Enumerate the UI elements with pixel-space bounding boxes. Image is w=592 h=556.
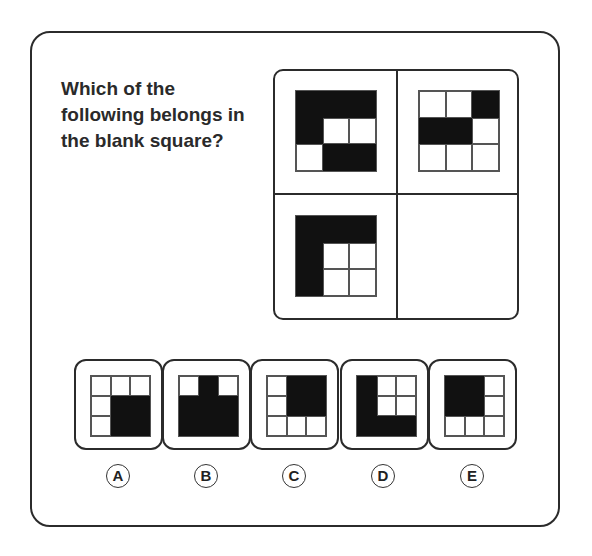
filled-cell <box>218 396 238 416</box>
empty-cell <box>484 376 504 396</box>
filled-cell <box>130 416 150 436</box>
empty-cell <box>472 118 499 145</box>
filled-cell <box>287 376 307 396</box>
filled-cell <box>130 396 150 416</box>
empty-cell <box>287 416 307 436</box>
option-b-label[interactable]: B <box>194 464 218 488</box>
empty-cell <box>267 376 287 396</box>
empty-cell <box>267 396 287 416</box>
empty-cell <box>267 416 287 436</box>
empty-cell <box>91 376 111 396</box>
empty-cell <box>396 396 416 416</box>
option-a-grid <box>90 375 151 437</box>
empty-cell <box>91 396 111 416</box>
filled-cell <box>218 416 238 436</box>
empty-cell <box>296 144 323 171</box>
question-text: Which of the following belongs in the bl… <box>61 76 261 154</box>
filled-cell <box>199 396 219 416</box>
empty-cell <box>306 416 326 436</box>
filled-cell <box>465 376 485 396</box>
filled-cell <box>349 216 376 243</box>
option-d-label[interactable]: D <box>371 464 395 488</box>
empty-cell <box>484 396 504 416</box>
empty-cell <box>484 416 504 436</box>
option-c-label[interactable]: C <box>282 464 306 488</box>
empty-cell <box>130 376 150 396</box>
option-c-figure[interactable] <box>250 359 339 450</box>
empty-cell <box>179 376 199 396</box>
empty-cell <box>446 144 473 171</box>
filled-cell <box>396 416 416 436</box>
option-a-figure[interactable] <box>74 359 163 450</box>
filled-cell <box>357 416 377 436</box>
filled-cell <box>296 243 323 270</box>
filled-cell <box>377 416 397 436</box>
puzzle-matrix <box>273 69 519 320</box>
filled-cell <box>357 396 377 416</box>
option-b-grid <box>178 375 239 437</box>
empty-cell <box>445 416 465 436</box>
empty-cell <box>218 376 238 396</box>
filled-cell <box>323 216 350 243</box>
filled-cell <box>179 396 199 416</box>
filled-cell <box>323 144 350 171</box>
empty-cell <box>465 416 485 436</box>
filled-cell <box>296 269 323 296</box>
empty-cell <box>323 243 350 270</box>
puzzle-cell-top-left <box>295 90 377 172</box>
empty-cell <box>349 118 376 145</box>
filled-cell <box>111 396 131 416</box>
filled-cell <box>111 416 131 436</box>
option-e-figure[interactable] <box>428 359 517 450</box>
empty-cell <box>396 376 416 396</box>
empty-cell <box>349 269 376 296</box>
empty-cell <box>323 118 350 145</box>
empty-cell <box>472 144 499 171</box>
filled-cell <box>296 91 323 118</box>
empty-cell <box>349 243 376 270</box>
empty-cell <box>91 416 111 436</box>
option-a-label[interactable]: A <box>106 464 130 488</box>
option-c-grid <box>266 375 327 437</box>
filled-cell <box>419 118 446 145</box>
filled-cell <box>296 216 323 243</box>
empty-cell <box>419 91 446 118</box>
option-e-grid <box>444 375 505 437</box>
filled-cell <box>349 144 376 171</box>
filled-cell <box>199 376 219 396</box>
filled-cell <box>323 91 350 118</box>
option-d-figure[interactable] <box>340 359 429 450</box>
filled-cell <box>296 118 323 145</box>
empty-cell <box>323 269 350 296</box>
empty-cell <box>446 91 473 118</box>
puzzle-cell-blank <box>398 195 517 318</box>
empty-cell <box>419 144 446 171</box>
filled-cell <box>306 396 326 416</box>
empty-cell <box>111 376 131 396</box>
filled-cell <box>472 91 499 118</box>
filled-cell <box>306 376 326 396</box>
empty-cell <box>377 396 397 416</box>
filled-cell <box>357 376 377 396</box>
filled-cell <box>349 91 376 118</box>
filled-cell <box>465 396 485 416</box>
filled-cell <box>287 396 307 416</box>
puzzle-cell-top-right <box>418 90 500 172</box>
filled-cell <box>199 416 219 436</box>
option-d-grid <box>356 375 417 437</box>
filled-cell <box>445 396 465 416</box>
empty-cell <box>377 376 397 396</box>
puzzle-cell-bottom-left <box>295 215 377 297</box>
option-e-label[interactable]: E <box>460 464 484 488</box>
filled-cell <box>445 376 465 396</box>
option-b-figure[interactable] <box>162 359 251 450</box>
filled-cell <box>446 118 473 145</box>
filled-cell <box>179 416 199 436</box>
